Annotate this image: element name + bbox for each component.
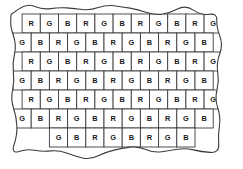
mosaic-cell-label: G	[128, 76, 134, 85]
mosaic-cell-label: G	[110, 133, 116, 142]
mosaic-cell-label: B	[38, 114, 43, 123]
mosaic-cell-label: G	[210, 19, 216, 28]
mosaic-cell-label: R	[110, 76, 116, 85]
mosaic-cell-label: B	[65, 95, 70, 104]
mosaic-cell-label: R	[192, 57, 198, 66]
mosaic-cell-label: G	[19, 76, 25, 85]
mosaic-cell-label: B	[174, 95, 179, 104]
mosaic-cell-label: G	[128, 38, 134, 47]
mosaic-cell-label: B	[201, 76, 206, 85]
mosaic-cell-label: B	[120, 57, 125, 66]
mosaic-cell-label: R	[138, 57, 144, 66]
mosaic-cell-label: B	[92, 38, 97, 47]
mosaic-cell-label: G	[183, 76, 189, 85]
mosaic-cell-label: B	[38, 38, 43, 47]
mosaic-cell-label: B	[65, 19, 70, 28]
mosaic-cell-label: R	[83, 19, 89, 28]
mosaic-diagram: RGBRGBRGBRGGBRGBRGBRGBRGBRGBRGBRGGBRGBRG…	[0, 0, 243, 169]
mosaic-cell-label: B	[92, 114, 97, 123]
mosaic-cell-label: B	[120, 95, 125, 104]
mosaic-cell-label: G	[47, 95, 53, 104]
mosaic-cell-label: G	[47, 19, 53, 28]
mosaic-cell-label: B	[147, 76, 152, 85]
mosaic-cell-label: G	[183, 38, 189, 47]
mosaic-cell-label: R	[92, 133, 98, 142]
mosaic-cell-label: B	[174, 19, 179, 28]
mosaic-cell-label: R	[165, 76, 171, 85]
mosaic-cell-label: G	[56, 133, 62, 142]
mosaic-cell-label: G	[183, 114, 189, 123]
mosaic-cell-label: G	[19, 38, 25, 47]
mosaic-cell-label: R	[165, 114, 171, 123]
mosaic-cell-label: R	[138, 19, 144, 28]
mosaic-cell-label: G	[101, 57, 107, 66]
mosaic-cell-label: R	[138, 95, 144, 104]
mosaic-cell-label: R	[147, 133, 153, 142]
mosaic-cell-label: G	[156, 19, 162, 28]
mosaic-cell-label: G	[128, 114, 134, 123]
mosaic-cell-label: G	[74, 38, 80, 47]
mosaic-cell-label: R	[56, 76, 62, 85]
mosaic-cell-label: B	[201, 38, 206, 47]
mosaic-cell-label: G	[210, 57, 216, 66]
mosaic-cell-label: R	[83, 95, 89, 104]
mosaic-cell-label: G	[74, 76, 80, 85]
mosaic-cell-label: R	[29, 57, 35, 66]
mosaic-cell-label: R	[110, 38, 116, 47]
mosaic-cell-label: R	[29, 95, 35, 104]
mosaic-cells-layer: RGBRGBRGBRGGBRGBRGBRGBRGBRGBRGBRGGBRGBRG…	[13, 14, 222, 147]
mosaic-cell-label: G	[156, 57, 162, 66]
mosaic-cell-label: G	[47, 57, 53, 66]
mosaic-cell-label: B	[174, 57, 179, 66]
mosaic-cell-label: B	[74, 133, 79, 142]
mosaic-cell-label: G	[165, 133, 171, 142]
mosaic-cell-label: R	[192, 95, 198, 104]
mosaic-cell-label: R	[83, 57, 89, 66]
mosaic-cell-label: B	[65, 57, 70, 66]
figure-root: RGBRGBRGBRGGBRGBRGBRGBRGBRGBRGBRGGBRGBRG…	[0, 0, 243, 169]
mosaic-cell-label: R	[165, 38, 171, 47]
mosaic-cell-label: B	[129, 133, 134, 142]
mosaic-cell-label: R	[29, 19, 35, 28]
mosaic-cell-label: R	[110, 114, 116, 123]
mosaic-cell-label: G	[101, 95, 107, 104]
mosaic-cell-label: G	[156, 95, 162, 104]
mosaic-cell-label: R	[56, 114, 62, 123]
mosaic-cell-label: B	[147, 38, 152, 47]
mosaic-cell-label: G	[101, 19, 107, 28]
mosaic-cell-label: R	[192, 19, 198, 28]
mosaic-cell-label: B	[38, 76, 43, 85]
mosaic-cell-label: R	[56, 38, 62, 47]
mosaic-cell-label: B	[183, 133, 188, 142]
mosaic-cell-label: B	[201, 114, 206, 123]
mosaic-cell-label: B	[147, 114, 152, 123]
mosaic-cell-label: G	[210, 95, 216, 104]
mosaic-cell-label: B	[92, 76, 97, 85]
mosaic-cell-label: B	[120, 19, 125, 28]
mosaic-cell-label: G	[74, 114, 80, 123]
mosaic-cell-label: G	[19, 114, 25, 123]
